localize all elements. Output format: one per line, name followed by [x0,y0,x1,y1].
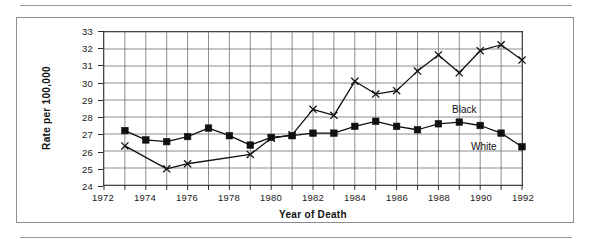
x-tick-label: 1984 [344,192,366,203]
x-tick-label: 1978 [218,192,240,203]
y-axis-title: Rate per 100,000 [41,66,52,150]
y-tick-mark [98,186,103,187]
data-point-square [477,122,484,129]
data-point-square [226,132,233,139]
x-tick-marks [104,185,522,190]
data-point-square [519,143,526,150]
data-point-square [414,126,421,133]
data-point-square [352,123,359,130]
series-label-white: White [471,141,497,152]
x-axis-title: Year of Death [279,209,347,220]
x-tick-label: 1990 [470,192,492,203]
y-tick-label: 29 [71,94,93,105]
data-point-square [331,130,338,137]
y-tick-label: 32 [71,43,93,54]
data-point-square [247,142,254,149]
data-point-square [163,138,170,145]
figure-page: Rate per 100,000 Year of Death 242526272… [0,0,592,243]
data-point-square [143,137,150,144]
line-chart: Rate per 100,000 Year of Death 242526272… [0,0,592,243]
data-point-square [205,125,212,132]
x-tick-label: 1972 [92,192,114,203]
y-tick-label: 31 [71,60,93,71]
x-tick-label: 1980 [260,192,282,203]
data-point-square [184,133,191,140]
y-tick-label: 27 [71,129,93,140]
data-point-square [393,123,400,130]
data-point-square [456,119,463,126]
data-point-square [498,130,505,137]
y-tick-label: 28 [71,112,93,123]
x-tick-label: 1976 [176,192,198,203]
data-point-square [372,118,379,125]
x-tick-label: 1982 [302,192,324,203]
y-tick-label: 26 [71,146,93,157]
data-point-square [435,121,442,128]
x-tick-label: 1992 [512,192,534,203]
x-tick-label: 1988 [428,192,450,203]
data-point-square [310,130,317,137]
x-tick-label: 1974 [134,192,156,203]
y-tick-label: 30 [71,77,93,88]
data-point-square [122,127,129,134]
y-tick-label: 24 [71,181,93,192]
series-label-black: Black [452,104,476,115]
y-tick-label: 25 [71,163,93,174]
x-tick-label: 1986 [386,192,408,203]
y-tick-label: 33 [71,26,93,37]
